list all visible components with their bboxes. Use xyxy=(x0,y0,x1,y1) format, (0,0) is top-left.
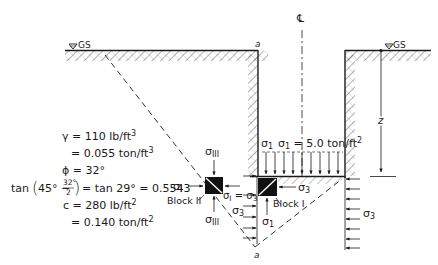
sigmaIII-label-top: σIII xyxy=(205,145,219,159)
sigmaIII-label-bottom: σIII xyxy=(205,213,219,227)
centerline: ℄ xyxy=(296,12,304,176)
svg-text:= tan 29° = 0.5543: = tan 29° = 0.5543 xyxy=(82,182,190,195)
sigmaI-equals-sigma3-label: σI = σ3 xyxy=(223,190,258,203)
sigma3-label-right-wall: σ3 xyxy=(363,207,375,221)
block-2-label: Block II xyxy=(167,195,201,206)
prop-c-ton: = 0.140 ton/ft2 xyxy=(71,215,154,229)
block-2 xyxy=(205,177,223,194)
right-ground-surface xyxy=(345,51,431,62)
svg-text:tan: tan xyxy=(11,182,29,195)
prop-tan: tan ( 45° − 32° 2 ) = tan 29° = 0.5543 xyxy=(11,178,190,197)
soil-properties: γ = 110 lb/ft3 = 0.055 ton/ft3 ϕ = 32° t… xyxy=(11,129,190,229)
left-wall xyxy=(248,50,258,176)
prop-gamma: γ = 110 lb/ft3 xyxy=(62,129,136,143)
surface-load-arrows xyxy=(262,152,343,174)
gs-marker-left: GS xyxy=(69,40,91,50)
svg-text:2: 2 xyxy=(66,188,71,197)
sigma1-label-below: σ1 xyxy=(262,215,274,229)
gs-marker-right: GS xyxy=(385,40,406,50)
prop-gamma-ton: = 0.055 ton/ft3 xyxy=(71,146,154,160)
sigma3-arrows-right-wall xyxy=(345,176,360,250)
point-a-top-label: a xyxy=(255,39,261,49)
right-wall xyxy=(345,50,355,178)
point-a-bottom-label: a xyxy=(254,250,260,260)
svg-text:GS: GS xyxy=(78,40,91,50)
sigma3-arrows-left-wall xyxy=(243,176,257,244)
surface-load-label: σ1 = 5.0 ton/ft2 xyxy=(278,136,362,151)
excavation-diagram: GS GS a a ℄ z z σ1 σ1 = 5.0 ton/ft2 xyxy=(0,0,438,265)
prop-c: c = 280 lb/ft2 xyxy=(63,198,137,212)
prop-phi: ϕ = 32° xyxy=(62,164,105,177)
svg-text:z: z xyxy=(377,115,384,126)
block-1-label: Block I xyxy=(273,198,305,209)
svg-text:GS: GS xyxy=(393,40,406,50)
sigma3-label-left-wall: σ3 xyxy=(232,204,244,218)
depth-dimension: z z xyxy=(370,49,396,177)
sigma1-label-top: σ1 xyxy=(261,137,273,151)
block-1 xyxy=(258,178,277,196)
svg-text:): ) xyxy=(74,178,80,197)
svg-text:℄: ℄ xyxy=(296,12,304,25)
left-ground-surface xyxy=(65,51,268,62)
